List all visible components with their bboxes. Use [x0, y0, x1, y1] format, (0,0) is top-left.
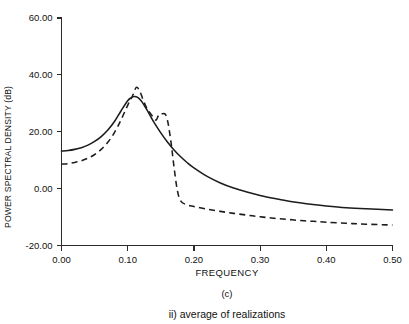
x-axis-label: FREQUENCY: [195, 267, 259, 278]
x-tick-label: 0.50: [383, 254, 402, 265]
y-tick-label: 40.00: [29, 69, 53, 80]
series-dashed-curve: [62, 87, 393, 225]
data-series-layer: [62, 87, 393, 225]
y-tick-label: 0.00: [34, 183, 53, 194]
power-spectral-density-chart: -20.000.0020.0040.0060.00 0.000.100.200.…: [0, 0, 409, 324]
y-tick-label: 20.00: [29, 126, 53, 137]
y-tick-label: -20.00: [26, 240, 53, 251]
panel-label: (c): [221, 288, 232, 299]
x-axis-ticks: 0.000.100.200.300.400.50: [52, 246, 402, 265]
x-tick-label: 0.40: [317, 254, 336, 265]
x-tick-label: 0.10: [118, 254, 137, 265]
series-solid-curve: [62, 96, 393, 209]
y-tick-label: 60.00: [29, 12, 53, 23]
axes: [61, 18, 393, 246]
x-tick-label: 0.00: [52, 254, 71, 265]
x-tick-label: 0.20: [185, 254, 204, 265]
y-axis-label: POWER SPECTRAL DENSITY (dB): [3, 86, 13, 228]
figure-caption: ii) average of realizations: [169, 308, 286, 320]
x-tick-label: 0.30: [251, 254, 270, 265]
figure-panel: -20.000.0020.0040.0060.00 0.000.100.200.…: [0, 0, 409, 324]
y-axis-ticks: -20.000.0020.0040.0060.00: [26, 12, 62, 251]
